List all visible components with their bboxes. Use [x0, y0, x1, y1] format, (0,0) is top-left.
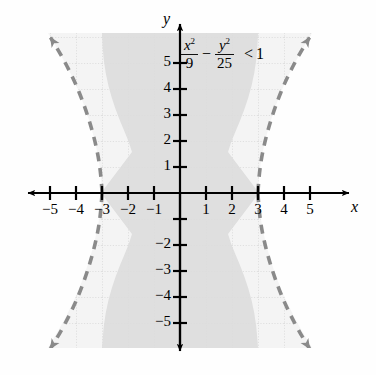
x-axis-label: x: [351, 198, 358, 216]
y-tick-label-neg5: −5: [141, 313, 171, 330]
figure-canvas: x2 9 − y2 25 < 1 x y −5−4−3−2−112345−5−4…: [0, 0, 376, 375]
y-tick-label-pos1: 1: [141, 157, 171, 174]
y-tick-label-pos4: 4: [141, 79, 171, 96]
x-tick-label-pos2: 2: [219, 201, 245, 218]
y-tick-label-pos3: 3: [141, 105, 171, 122]
y-tick-label-neg4: −4: [141, 287, 171, 304]
x-tick-label-pos1: 1: [193, 201, 219, 218]
x-tick-label-neg5: −5: [37, 201, 63, 218]
x-tick-label-neg2: −2: [115, 201, 141, 218]
x-tick-label-neg1: −1: [141, 201, 167, 218]
x-tick-label-pos3: 3: [245, 201, 271, 218]
y-tick-label-neg2: −2: [141, 235, 171, 252]
x-tick-label-pos4: 4: [271, 201, 297, 218]
x-tick-label-neg3: −3: [89, 201, 115, 218]
x-tick-label-neg4: −4: [63, 201, 89, 218]
y-axis-label: y: [163, 10, 170, 28]
graph-svg: [0, 0, 376, 375]
y-tick-label-neg3: −3: [141, 261, 171, 278]
x-tick-label-pos5: 5: [297, 201, 323, 218]
y-tick-label-pos2: 2: [141, 131, 171, 148]
y-tick-label-pos5: 5: [141, 53, 171, 70]
